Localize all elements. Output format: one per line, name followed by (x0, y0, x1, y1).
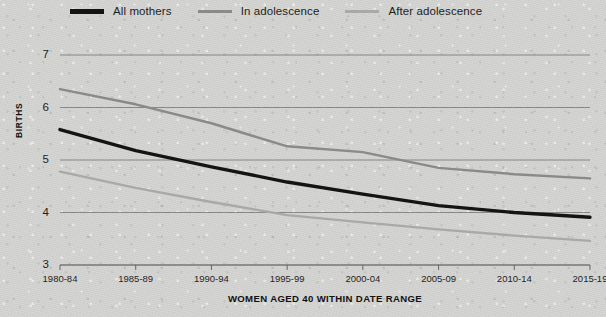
y-axis-title: BIRTHS (14, 103, 24, 138)
series-line-in-adolescence (60, 89, 590, 178)
y-tick-label: 7 (43, 48, 49, 60)
x-tick-label: 2000-04 (345, 273, 380, 284)
legend-label-after-adolescence: After adolescence (388, 5, 482, 17)
y-tick-label: 6 (43, 101, 49, 113)
legend-swatch-in-adolescence (198, 10, 232, 13)
legend-item-after-adolescence: After adolescence (345, 5, 482, 17)
x-tick-label: 2005-09 (421, 273, 456, 284)
x-tick-label: 1980-84 (43, 273, 78, 284)
x-tick-label: 1990-94 (194, 273, 229, 284)
y-tick-labels: 34567 (43, 48, 50, 270)
line-chart-svg: 34567 1980-841985-891990-941995-992000-0… (0, 22, 606, 317)
x-tick-label: 1995-99 (270, 273, 305, 284)
x-tick-label: 1985-89 (118, 273, 153, 284)
series-line-after-adolescence (60, 172, 590, 241)
legend-item-in-adolescence: In adolescence (198, 5, 320, 17)
gridlines (60, 55, 590, 265)
x-tick-labels: 1980-841985-891990-941995-992000-042005-… (43, 273, 606, 284)
legend-label-in-adolescence: In adolescence (241, 5, 320, 17)
y-tick-label: 5 (43, 153, 49, 165)
legend-item-all-mothers: All mothers (70, 5, 172, 17)
x-tick-marks (60, 265, 590, 270)
x-axis-title: WOMEN AGED 40 WITHIN DATE RANGE (228, 293, 422, 304)
y-tick-label: 4 (43, 206, 50, 218)
x-tick-label: 2010-14 (497, 273, 532, 284)
x-tick-label: 2015-19 (573, 273, 606, 284)
legend-swatch-after-adolescence (345, 10, 379, 13)
plot-area: 34567 1980-841985-891990-941995-992000-0… (0, 22, 606, 275)
legend-label-all-mothers: All mothers (113, 5, 172, 17)
y-tick-label: 3 (43, 258, 49, 270)
data-series-lines (60, 89, 590, 241)
chart-legend: All mothers In adolescence After adolesc… (0, 0, 606, 22)
legend-swatch-all-mothers (70, 9, 104, 14)
chart-container: All mothers In adolescence After adolesc… (0, 0, 606, 317)
